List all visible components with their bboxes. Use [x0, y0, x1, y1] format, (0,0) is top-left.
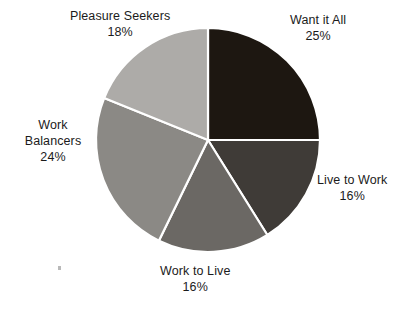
- pie-label-work-to-live: Work to Live 16%: [160, 263, 230, 295]
- pie-label-work-balancers: Work Balancers 24%: [12, 117, 94, 165]
- pie-label-want-it-all-value: 25%: [290, 28, 346, 44]
- pie-slice-group: [96, 28, 320, 252]
- pie-label-live-to-work-value: 16%: [317, 188, 387, 204]
- pie-chart: Pleasure Seekers 18% Want it All 25% Wor…: [0, 0, 412, 318]
- pie-label-want-it-all: Want it All 25%: [290, 12, 346, 44]
- scan-artifact-speck: [58, 266, 61, 270]
- pie-label-work-balancers-value: 24%: [12, 149, 94, 165]
- pie-label-live-to-work-name: Live to Work: [317, 172, 387, 188]
- pie-slice: [208, 28, 320, 140]
- pie-label-pleasure-seekers: Pleasure Seekers 18%: [70, 8, 170, 40]
- pie-label-pleasure-seekers-name: Pleasure Seekers: [70, 8, 170, 24]
- pie-label-live-to-work: Live to Work 16%: [317, 172, 387, 204]
- pie-label-work-to-live-name: Work to Live: [160, 263, 230, 279]
- pie-label-work-to-live-value: 16%: [160, 279, 230, 295]
- pie-label-pleasure-seekers-value: 18%: [70, 24, 170, 40]
- pie-label-want-it-all-name: Want it All: [290, 12, 346, 28]
- pie-label-work-balancers-name: Work Balancers: [12, 117, 94, 149]
